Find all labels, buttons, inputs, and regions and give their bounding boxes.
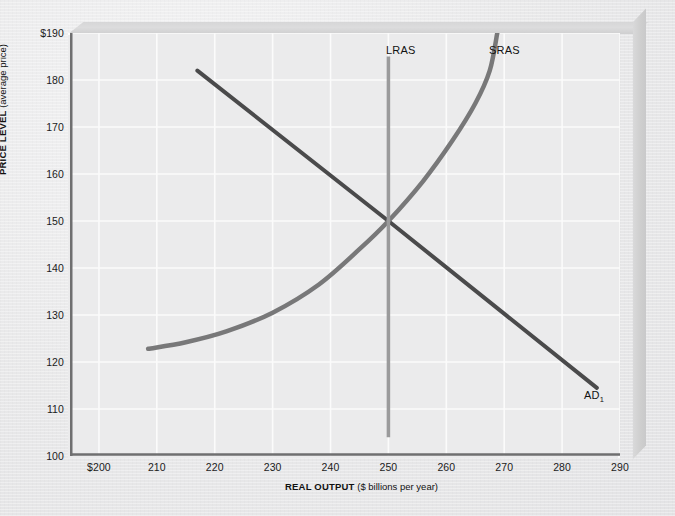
x-tick-label-290: 290 [611,461,629,473]
x-tick-label-230: 230 [264,461,282,473]
x-axis-title-normal: ($ billions per year) [355,481,438,492]
ad1-label-subscript: 1 [600,395,604,404]
ad1-label-text: AD [584,389,600,401]
y-tick-label-170: 170 [46,121,64,133]
x-tick-label-210: 210 [148,461,166,473]
x-axis-title: REAL OUTPUT ($ billions per year) [0,481,675,492]
plot-area [70,33,620,456]
y-tick-label-110: 110 [47,403,64,415]
y-tick-label-180: 180 [46,74,64,86]
x-tick-label-220: 220 [206,461,224,473]
y-tick-label-190: $190 [40,27,64,39]
x-tick-label-270: 270 [495,461,513,473]
y-axis-title-normal: (average price) [0,44,8,111]
x-tick-label-260: 260 [437,461,455,473]
x-tick-label-200: $200 [87,461,111,473]
panel-right-bevel [633,9,646,459]
x-axis-tick-labels: $200210220230240250260270280290 [70,461,630,477]
plot-background [70,33,620,456]
y-tick-label-150: 150 [46,215,64,227]
x-tick-label-250: 250 [379,461,397,473]
ad1-curve-label: AD1 [584,389,604,404]
y-tick-label-160: 160 [46,168,64,180]
ad-as-chart-figure: $190180170160150140130120110100 $2002102… [0,0,675,516]
y-axis-tick-labels: $190180170160150140130120110100 [24,33,64,456]
lras-curve-label: LRAS [386,44,416,56]
y-axis-title: PRICE LEVEL (average price) [0,44,8,175]
x-tick-label-240: 240 [322,461,340,473]
y-axis-title-bold: PRICE LEVEL [0,111,8,176]
x-axis-title-bold: REAL OUTPUT [285,481,355,492]
y-tick-label-100: 100 [46,450,64,462]
y-tick-label-120: 120 [46,356,64,368]
x-tick-label-280: 280 [553,461,571,473]
y-tick-label-140: 140 [46,262,64,274]
plot-svg [70,33,620,456]
sras-curve-label: SRAS [489,44,520,56]
y-tick-label-130: 130 [46,309,64,321]
